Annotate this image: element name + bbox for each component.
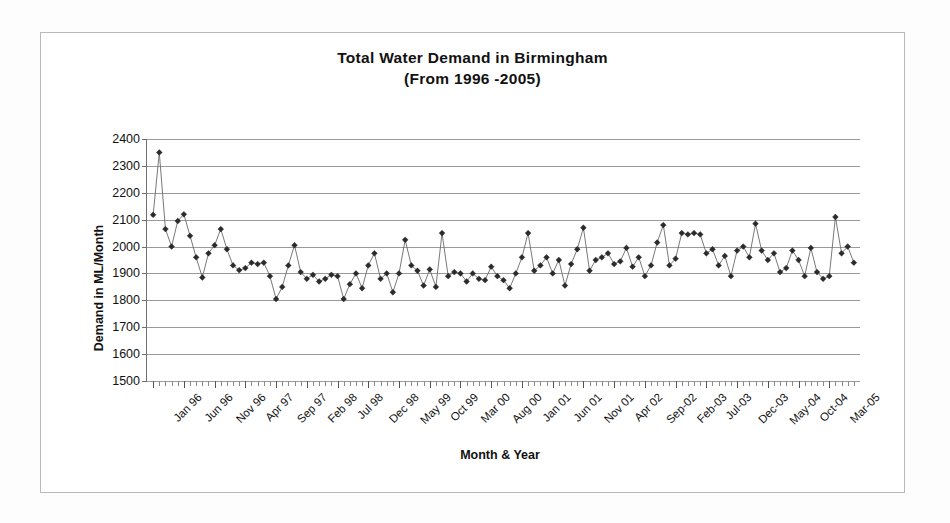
- x-tick-mark: [202, 381, 203, 386]
- x-tick-mark: [196, 381, 197, 386]
- data-point-marker: [796, 257, 802, 263]
- x-tick-label: Nov 01: [602, 391, 636, 425]
- x-tick-mark: [737, 381, 738, 388]
- x-tick-mark: [159, 381, 160, 386]
- data-point-marker: [353, 271, 359, 277]
- x-tick-mark: [811, 381, 812, 386]
- data-point-marker: [488, 264, 494, 270]
- x-tick-mark: [762, 381, 763, 386]
- data-point-marker: [335, 273, 341, 279]
- x-tick-mark: [577, 381, 578, 386]
- y-tick-label: 1600: [88, 347, 140, 361]
- x-tick-mark: [731, 381, 732, 386]
- data-point-marker: [746, 254, 752, 260]
- x-tick-mark: [639, 381, 640, 386]
- x-tick-label: Apr 97: [263, 391, 295, 423]
- x-tick-mark: [848, 381, 849, 386]
- data-point-marker: [525, 230, 531, 236]
- x-tick-label: Oct 99: [448, 391, 480, 423]
- x-tick-mark: [651, 381, 652, 386]
- x-tick-mark: [473, 381, 474, 386]
- data-point-marker: [654, 240, 660, 246]
- x-tick-mark: [774, 381, 775, 386]
- data-point-marker: [273, 296, 279, 302]
- x-tick-mark: [583, 381, 584, 388]
- chart-title-line1: Total Water Demand in Birmingham: [41, 47, 904, 68]
- x-tick-mark: [374, 381, 375, 386]
- data-point-marker: [372, 250, 378, 256]
- data-point-marker: [851, 260, 857, 266]
- x-tick-mark: [540, 381, 541, 386]
- x-tick-mark: [688, 381, 689, 386]
- data-point-marker: [218, 226, 224, 232]
- x-tick-mark: [823, 381, 824, 386]
- data-point-marker: [697, 232, 703, 238]
- x-tick-mark: [768, 381, 769, 388]
- data-point-marker: [433, 284, 439, 290]
- data-point-marker: [710, 246, 716, 252]
- x-tick-mark: [411, 381, 412, 386]
- data-point-marker: [322, 276, 328, 282]
- y-tick-label: 1900: [88, 266, 140, 280]
- x-tick-mark: [405, 381, 406, 386]
- x-tick-mark: [399, 381, 400, 388]
- x-tick-label: Jun 01: [571, 391, 604, 424]
- x-tick-mark: [676, 381, 677, 388]
- data-point-marker: [163, 226, 169, 232]
- data-point-marker: [494, 273, 500, 279]
- data-point-marker: [328, 272, 334, 278]
- data-point-marker: [421, 283, 427, 289]
- data-point-marker: [359, 285, 365, 291]
- x-tick-mark: [626, 381, 627, 386]
- x-tick-mark: [657, 381, 658, 386]
- x-tick-label: Sep-02: [664, 391, 699, 426]
- data-point-marker: [224, 246, 230, 252]
- data-point-marker: [833, 214, 839, 220]
- data-point-marker: [556, 257, 562, 263]
- data-point-marker: [593, 257, 599, 263]
- x-tick-mark: [786, 381, 787, 386]
- data-point-marker: [581, 225, 587, 231]
- x-tick-mark: [805, 381, 806, 386]
- data-point-marker: [482, 277, 488, 283]
- data-point-marker: [691, 230, 697, 236]
- data-point-marker: [802, 273, 808, 279]
- data-point-marker: [759, 248, 765, 254]
- data-point-marker: [685, 232, 691, 238]
- x-tick-mark: [424, 381, 425, 386]
- x-tick-mark: [522, 381, 523, 388]
- x-tick-mark: [510, 381, 511, 386]
- x-tick-mark: [442, 381, 443, 386]
- data-series: [147, 139, 860, 381]
- x-tick-mark: [842, 381, 843, 386]
- x-tick-label: Jul-03: [724, 391, 755, 422]
- x-tick-mark: [436, 381, 437, 386]
- x-tick-mark: [835, 381, 836, 386]
- x-tick-label: Jul 98: [355, 391, 385, 421]
- x-tick-mark: [553, 381, 554, 388]
- x-tick-mark: [559, 381, 560, 386]
- x-tick-mark: [288, 381, 289, 386]
- x-tick-mark: [454, 381, 455, 386]
- x-tick-label: Apr 02: [632, 391, 664, 423]
- x-tick-mark: [491, 381, 492, 388]
- x-tick-mark: [528, 381, 529, 386]
- x-tick-mark: [270, 381, 271, 386]
- data-point-marker: [550, 271, 556, 277]
- data-point-marker: [513, 271, 519, 277]
- x-tick-mark: [331, 381, 332, 386]
- x-tick-mark: [307, 381, 308, 388]
- x-tick-mark: [153, 381, 154, 388]
- x-tick-mark: [700, 381, 701, 386]
- x-tick-mark: [178, 381, 179, 386]
- x-tick-mark: [356, 381, 357, 386]
- x-axis-title: Month & Year: [410, 448, 540, 462]
- data-point-marker: [679, 230, 685, 236]
- x-tick-mark: [614, 381, 615, 388]
- x-tick-mark: [547, 381, 548, 386]
- x-tick-mark: [694, 381, 695, 386]
- data-point-marker: [390, 289, 396, 295]
- data-point-marker: [396, 271, 402, 277]
- plot-area: 2400230022002100200019001800170016001500…: [146, 139, 860, 382]
- x-tick-mark: [669, 381, 670, 386]
